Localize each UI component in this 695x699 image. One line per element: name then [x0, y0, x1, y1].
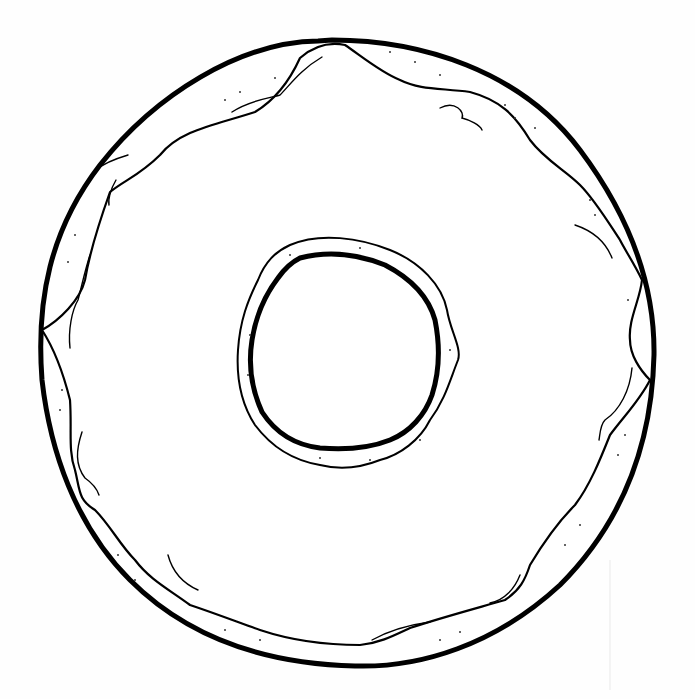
coloring-page-canvas	[0, 0, 695, 699]
donut-hole	[250, 254, 438, 449]
donut-illustration	[0, 0, 695, 699]
